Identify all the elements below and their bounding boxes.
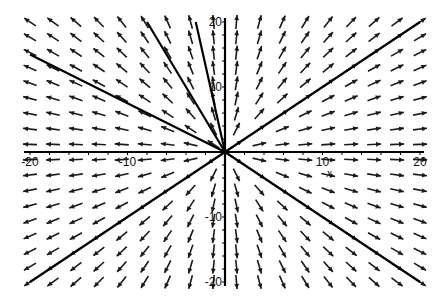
arrow-head-icon xyxy=(376,142,381,147)
arrow-head-icon xyxy=(69,142,74,147)
solution-line xyxy=(225,152,420,282)
arrow-head-icon xyxy=(330,142,335,147)
arrow-head-icon xyxy=(23,80,29,85)
y-tick-label: -20 xyxy=(205,275,223,289)
y-tick-label: -10 xyxy=(205,210,223,224)
arrow-head-icon xyxy=(376,157,381,162)
arrow-head-icon xyxy=(234,284,239,289)
arrow-head-icon xyxy=(399,142,404,147)
arrow-head-icon xyxy=(69,157,74,162)
arrow-head-icon xyxy=(92,157,97,162)
arrow-head-icon xyxy=(375,204,381,209)
arrow-head-icon xyxy=(23,219,29,224)
arrow-head-icon xyxy=(115,142,120,147)
arrow-head-icon xyxy=(46,157,51,162)
arrow-head-icon xyxy=(46,204,51,209)
arrow-head-icon xyxy=(92,142,97,147)
arrow-head-icon xyxy=(399,157,404,162)
arrow-head-icon xyxy=(375,96,381,101)
arrow-head-icon xyxy=(234,15,239,20)
arrow-head-icon xyxy=(330,157,335,162)
arrow-head-icon xyxy=(398,204,403,209)
y-tick-label: 20 xyxy=(209,15,223,29)
arrow-head-icon xyxy=(421,219,427,224)
direction-field-plot: -20-101020 2010-10-20 x xyxy=(0,0,444,297)
x-tick-label: 20 xyxy=(413,155,427,169)
arrow-head-icon xyxy=(258,46,263,52)
arrow-head-icon xyxy=(188,46,193,52)
arrow-head-icon xyxy=(46,142,51,147)
arrow-head-icon xyxy=(188,253,193,259)
x-tick-label: -20 xyxy=(21,155,39,169)
arrow-head-icon xyxy=(69,204,75,209)
arrow-head-icon xyxy=(69,96,75,101)
arrow-head-icon xyxy=(422,142,427,147)
arrow-head-icon xyxy=(46,96,51,101)
arrow-head-icon xyxy=(258,253,263,259)
arrow-head-icon xyxy=(398,96,403,101)
y-tick-label: 10 xyxy=(209,80,223,94)
x-axis-label: x xyxy=(326,166,333,180)
arrow-head-icon xyxy=(23,142,28,147)
x-tick-label: -10 xyxy=(119,155,137,169)
arrow-head-icon xyxy=(421,80,427,85)
arrow-head-icon xyxy=(353,142,358,147)
arrow-head-icon xyxy=(353,157,358,162)
